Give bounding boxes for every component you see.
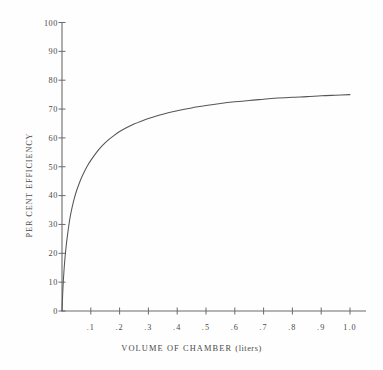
efficiency-curve <box>62 95 350 311</box>
x-axis-title-unit: (liters) <box>235 344 261 353</box>
x-axis-title-main: VOLUME OF CHAMBER <box>121 344 232 353</box>
x-axis-title: VOLUME OF CHAMBER (liters) <box>0 344 383 353</box>
plot-area <box>0 0 383 370</box>
efficiency-chart-figure: PER CENT EFFICIENCY 100 90 80 70 60 50 4… <box>0 0 383 370</box>
